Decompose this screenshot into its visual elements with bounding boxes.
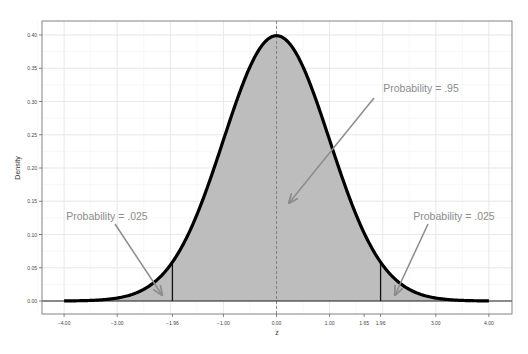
normal-distribution-chart: 0.000.050.100.150.200.250.300.350.40 −4.… xyxy=(0,0,528,354)
y-tick-label: 0.15 xyxy=(27,198,37,204)
y-tick-label: 0.00 xyxy=(27,298,37,304)
y-tick-label: 0.10 xyxy=(27,232,37,238)
y-axis: 0.000.050.100.150.200.250.300.350.40 xyxy=(27,32,42,304)
x-tick-label: 1.65 xyxy=(359,320,369,326)
y-tick-label: 0.20 xyxy=(27,165,37,171)
y-tick-label: 0.30 xyxy=(27,99,37,105)
x-tick-label: −1.00 xyxy=(217,320,230,326)
annotation-label: Probability = .025 xyxy=(413,210,495,222)
y-tick-label: 0.40 xyxy=(27,32,37,38)
y-axis-label: Density xyxy=(14,156,22,180)
x-tick-label: 0.00 xyxy=(272,320,282,326)
y-tick-label: 0.05 xyxy=(27,265,37,271)
annotation-label: Probability = .025 xyxy=(66,210,148,222)
x-tick-label: 3.00 xyxy=(431,320,441,326)
y-tick-label: 0.25 xyxy=(27,132,37,138)
x-tick-label: −1.96 xyxy=(166,320,179,326)
x-tick-label: 1.00 xyxy=(325,320,335,326)
x-axis: −4.00−3.00−1.96−1.000.001.001.651.963.00… xyxy=(58,314,494,326)
x-tick-label: −4.00 xyxy=(58,320,71,326)
x-tick-label: 1.96 xyxy=(376,320,386,326)
chart-svg: 0.000.050.100.150.200.250.300.350.40 −4.… xyxy=(0,0,528,354)
y-tick-label: 0.35 xyxy=(27,65,37,71)
annotation-label: Probability = .95 xyxy=(383,82,459,94)
x-tick-label: 4.00 xyxy=(484,320,494,326)
x-axis-label: z xyxy=(275,329,279,336)
x-tick-label: −3.00 xyxy=(111,320,124,326)
